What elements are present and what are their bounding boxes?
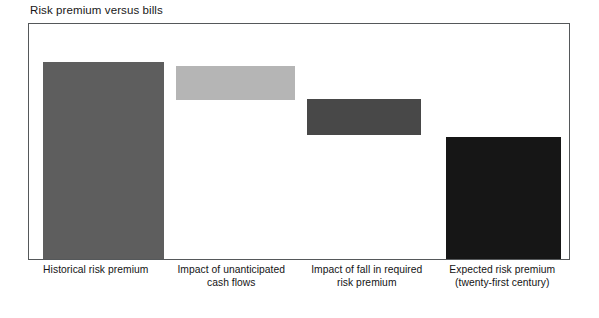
category-label-line2: cash flows <box>166 276 298 289</box>
plot-area <box>28 23 570 260</box>
category-label-line1: Impact of unanticipated <box>177 264 285 275</box>
category-label-line2: (twenty-first century) <box>437 276 569 289</box>
category-label-line1: Historical risk premium <box>43 264 148 275</box>
x-axis-category-labels: Historical risk premium Impact of unanti… <box>28 263 570 303</box>
category-label-line1: Expected risk premium <box>449 264 555 275</box>
bar-expected-risk-premium <box>446 137 561 259</box>
category-label-historical-risk-premium: Historical risk premium <box>28 263 164 303</box>
category-label-line1: Impact of fall in required <box>311 264 422 275</box>
category-label-line2: risk premium <box>301 276 433 289</box>
bar-impact-unanticipated-cash-flows <box>176 66 295 100</box>
chart-title: Risk premium versus bills <box>30 3 163 17</box>
category-label-impact-fall-required-risk-premium: Impact of fall in required risk premium <box>299 263 435 303</box>
category-label-impact-unanticipated-cash-flows: Impact of unanticipated cash flows <box>164 263 300 303</box>
bar-impact-fall-required-risk-premium <box>307 99 421 135</box>
bar-historical-risk-premium <box>43 62 164 259</box>
chart-container: Risk premium versus bills Historical ris… <box>0 0 599 318</box>
category-label-expected-risk-premium: Expected risk premium (twenty-first cent… <box>435 263 571 303</box>
